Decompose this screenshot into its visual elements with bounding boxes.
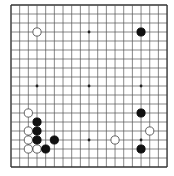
star-point — [88, 139, 91, 142]
black-stone — [137, 145, 145, 153]
white-stone — [33, 28, 41, 36]
white-stone — [111, 136, 119, 144]
star-point — [140, 139, 143, 142]
star-point — [36, 85, 39, 88]
black-stone — [33, 136, 41, 144]
black-stone — [137, 109, 145, 117]
star-point — [88, 31, 91, 34]
star-point — [88, 85, 91, 88]
black-stone — [42, 145, 50, 153]
star-point — [140, 85, 143, 88]
black-stone — [50, 136, 58, 144]
black-stone — [33, 127, 41, 135]
white-stone — [24, 109, 32, 117]
go-board[interactable] — [0, 0, 174, 176]
black-stone — [137, 28, 145, 36]
black-stone — [33, 118, 41, 126]
white-stone — [24, 127, 32, 135]
white-stone — [146, 127, 154, 135]
white-stone — [24, 136, 32, 144]
white-stone — [24, 145, 32, 153]
white-stone — [33, 145, 41, 153]
